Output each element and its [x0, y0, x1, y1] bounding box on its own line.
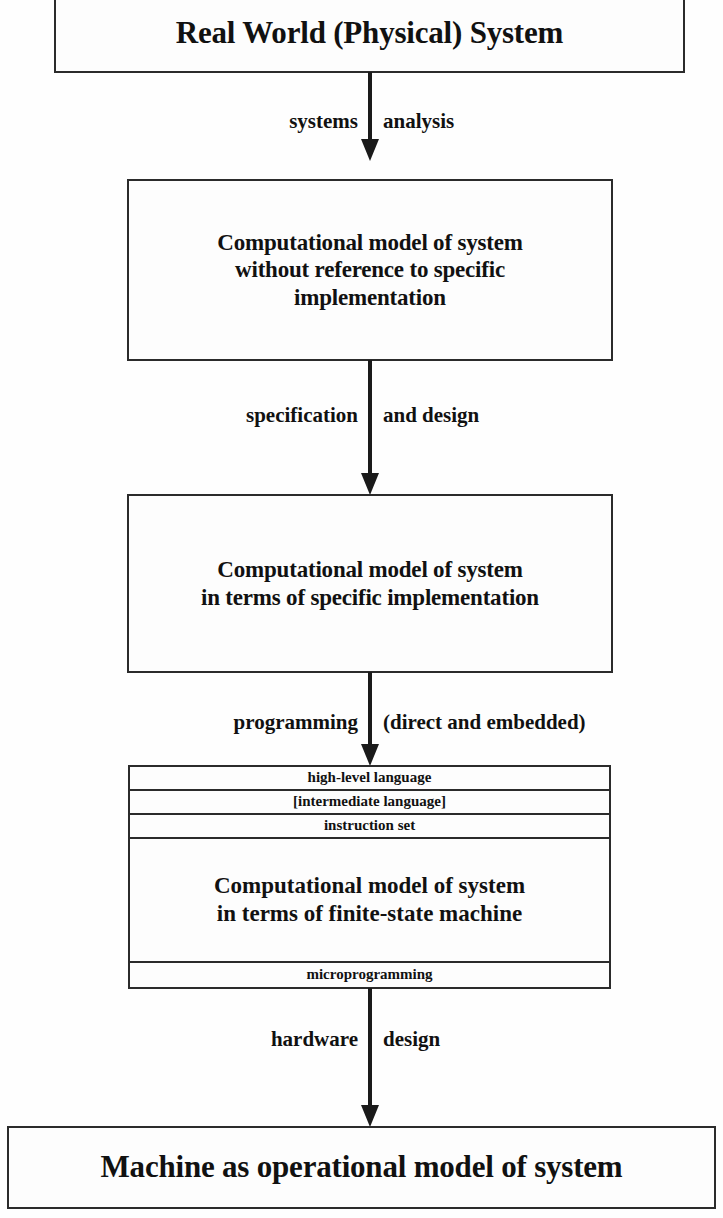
stack-band-intermediate-language: [intermediate language] [130, 791, 609, 815]
edge-label-right: design [370, 1029, 440, 1050]
arrow-head [361, 744, 379, 766]
stack-band-high-level-language: high-level language [130, 767, 609, 791]
node-line-2: in terms of finite-state machine [214, 900, 525, 928]
edge-label-right: analysis [370, 111, 454, 132]
edge-label-left: programming [234, 712, 370, 733]
node-real-world-system-label: Real World (Physical) System [176, 15, 563, 52]
diagram-canvas: Real World (Physical) System systems ana… [0, 0, 723, 1218]
node-specific-implementation-model: Computational model of system in terms o… [127, 494, 613, 673]
node-line-1: Computational model of system [217, 229, 522, 256]
node-machine-operational-model-label: Machine as operational model of system [101, 1149, 623, 1186]
node-line-1: Computational model of system [201, 556, 539, 583]
edge-label-left: hardware [271, 1029, 370, 1050]
node-line-2: without reference to specific [217, 256, 522, 283]
edge-label-right: and design [370, 405, 479, 426]
node-abstract-computational-model-label: Computational model of system without re… [217, 229, 522, 310]
node-line-1: Computational model of system [214, 872, 525, 900]
edge-label-right: (direct and embedded) [370, 712, 586, 733]
node-real-world-system: Real World (Physical) System [54, 0, 685, 73]
edge-label-left: specification [246, 405, 370, 426]
arrow-hardware-design [366, 988, 374, 1127]
edge-label-left: systems [289, 111, 370, 132]
node-finite-state-machine-stack: high-level language [intermediate langua… [128, 765, 611, 989]
arrow-head [361, 139, 379, 161]
node-specific-implementation-model-label: Computational model of system in terms o… [201, 556, 539, 610]
stack-band-fsm-model: Computational model of system in terms o… [130, 839, 609, 963]
arrow-head [361, 473, 379, 495]
node-line-2: in terms of specific implementation [201, 584, 539, 611]
arrow-shaft [368, 672, 372, 744]
arrow-head [361, 1105, 379, 1127]
stack-band-microprogramming: microprogramming [130, 963, 609, 987]
node-line-3: implementation [217, 284, 522, 311]
stack-band-instruction-set: instruction set [130, 815, 609, 839]
node-abstract-computational-model: Computational model of system without re… [127, 179, 613, 361]
arrow-specification-design [366, 360, 374, 495]
node-machine-operational-model: Machine as operational model of system [7, 1126, 716, 1209]
